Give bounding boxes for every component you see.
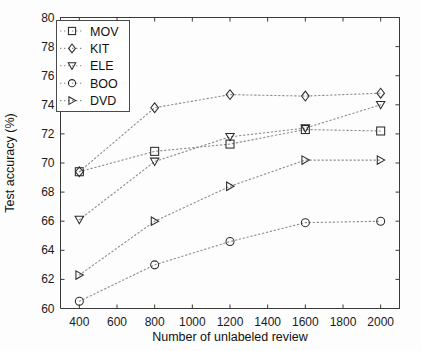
x-axis-tick-labels: 400600800100012001400160018002000 bbox=[69, 315, 394, 329]
y-tick-label: 68 bbox=[41, 185, 55, 199]
x-tick-label: 1600 bbox=[292, 315, 319, 329]
y-tick-label: 64 bbox=[41, 243, 55, 257]
x-tick-label: 1000 bbox=[179, 315, 206, 329]
series-line bbox=[79, 160, 380, 275]
y-tick-label: 80 bbox=[41, 11, 55, 25]
series-line bbox=[79, 130, 380, 172]
y-tick-label: 62 bbox=[41, 272, 55, 286]
x-tick-label: 1400 bbox=[254, 315, 281, 329]
data-point-boo bbox=[226, 238, 234, 246]
x-tick-label: 600 bbox=[107, 315, 127, 329]
series-line bbox=[79, 105, 380, 220]
x-tick-label: 1800 bbox=[330, 315, 357, 329]
data-series-layer bbox=[75, 88, 385, 305]
scatter-plot: 6062646668707274767880 40060080010001200… bbox=[0, 0, 421, 351]
x-axis-label: Number of unlabeled review bbox=[152, 330, 309, 344]
data-point-kit bbox=[377, 88, 385, 98]
legend-label: MOV bbox=[90, 25, 119, 39]
legend-label: KIT bbox=[90, 42, 110, 56]
y-axis-label: Test accuracy (%) bbox=[3, 113, 17, 212]
x-tick-label: 400 bbox=[69, 315, 89, 329]
y-tick-label: 60 bbox=[41, 302, 55, 316]
x-tick-label: 2000 bbox=[367, 315, 394, 329]
series-ele bbox=[75, 101, 385, 223]
x-tick-label: 1200 bbox=[217, 315, 244, 329]
y-tick-label: 78 bbox=[41, 40, 55, 54]
y-tick-label: 70 bbox=[41, 156, 55, 170]
y-tick-label: 74 bbox=[41, 98, 55, 112]
x-tick-label: 800 bbox=[145, 315, 165, 329]
legend-label: ELE bbox=[90, 59, 114, 73]
series-boo bbox=[75, 217, 384, 305]
chart-figure: 6062646668707274767880 40060080010001200… bbox=[0, 0, 421, 351]
series-dvd bbox=[76, 156, 385, 279]
chart-legend[interactable]: MOVKITELEBOODVD bbox=[57, 21, 130, 112]
data-point-ele bbox=[150, 158, 158, 165]
y-tick-label: 66 bbox=[41, 214, 55, 228]
legend-label: DVD bbox=[90, 94, 116, 108]
y-tick-label: 76 bbox=[41, 69, 55, 83]
legend-label: BOO bbox=[90, 77, 118, 91]
y-tick-label: 72 bbox=[41, 127, 55, 141]
series-line bbox=[79, 221, 380, 301]
y-axis-tick-labels: 6062646668707274767880 bbox=[41, 11, 55, 316]
